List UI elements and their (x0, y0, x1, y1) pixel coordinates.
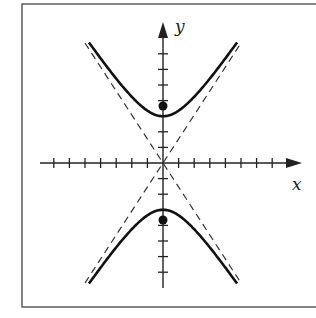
x-axis (40, 158, 302, 168)
figure-frame (22, 4, 316, 307)
y-axis-label: y (174, 16, 185, 36)
y-axis (158, 22, 168, 288)
y-axis-arrow-icon (158, 22, 168, 38)
focus-point-lower (159, 216, 168, 225)
focus-point-upper (159, 102, 168, 111)
x-axis-arrow-icon (286, 158, 302, 168)
x-axis-label: x (292, 174, 302, 194)
hyperbola-figure: y x (0, 0, 316, 318)
